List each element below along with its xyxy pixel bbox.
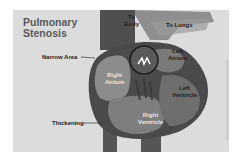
title-line-2: Stenosis <box>23 28 77 39</box>
label-left-atrium: Left Atrium <box>168 48 187 61</box>
label-right-atrium: Right Atrium <box>105 72 124 85</box>
label-right-atrium-line-1: Right <box>105 72 124 79</box>
label-left-ventricle: Left Ventricle <box>172 85 197 98</box>
diagram-title: Pulmonary Stenosis <box>23 17 77 39</box>
label-narrow-area: Narrow Area <box>42 54 77 61</box>
label-right-ventricle-line-2: Ventricle <box>138 119 163 126</box>
label-to-body-line-2: Body <box>124 21 139 28</box>
label-left-ventricle-line-2: Ventricle <box>172 92 197 99</box>
label-to-lungs: To Lungs <box>166 22 193 29</box>
label-right-atrium-line-2: Atrium <box>105 79 124 86</box>
label-thickening: Thickening <box>52 120 84 127</box>
label-left-atrium-line-2: Atrium <box>168 55 187 62</box>
side-credit-strip <box>226 60 229 140</box>
label-to-body: To Body <box>124 14 139 27</box>
label-right-ventricle: Right Ventricle <box>138 112 163 125</box>
